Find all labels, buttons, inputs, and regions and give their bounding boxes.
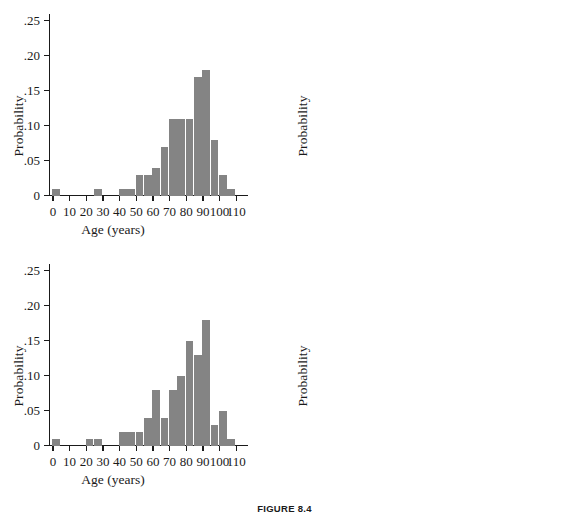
histogram-bar: [127, 189, 135, 196]
x-axis-tick: 110: [236, 446, 237, 451]
x-axis-tick: 10: [69, 446, 70, 451]
chart-panel-top-left: Probability 0.05.10.15.20.25010203040506…: [0, 0, 284, 252]
y-axis-tick: .05: [44, 160, 49, 161]
x-axis-tick-label: 10: [63, 205, 76, 218]
histogram-bar: [119, 189, 127, 196]
x-axis-tick-label: 40: [113, 205, 126, 218]
x-axis-tick-label: 0: [50, 205, 57, 218]
histogram-bar: [177, 376, 185, 446]
histogram-bar: [169, 390, 177, 446]
histogram-bar: [194, 77, 202, 196]
y-axis-tick: .10: [44, 375, 49, 376]
x-axis-tick: 100: [219, 446, 220, 451]
x-axis-tick-label: 30: [96, 455, 109, 468]
histogram-bar: [152, 168, 160, 196]
x-axis-tick-label: 90: [196, 455, 209, 468]
y-axis-tick-label: .05: [24, 154, 40, 167]
y-axis-tick-label: .20: [24, 49, 40, 62]
histogram-bar: [169, 119, 177, 196]
y-axis-tick-label: .15: [24, 334, 40, 347]
histogram-bar: [227, 189, 235, 196]
x-axis-tick: 110: [236, 196, 237, 201]
histogram-bar: [136, 432, 144, 446]
x-axis-tick-label: 40: [113, 455, 126, 468]
y-axis-tick-label: .25: [24, 264, 40, 277]
histogram-bar: [219, 175, 227, 196]
x-axis-tick-label: 20: [80, 455, 93, 468]
x-axis-tick-label: 50: [130, 455, 143, 468]
histogram-bar: [127, 432, 135, 446]
x-axis-tick-label: 0: [50, 455, 57, 468]
y-axis-label: Probability: [295, 66, 311, 186]
x-axis-tick-label: 20: [80, 205, 93, 218]
y-axis-tick: .15: [44, 340, 49, 341]
x-axis-tick: 40: [119, 446, 120, 451]
x-axis-label: Age (years): [18, 222, 208, 238]
chart-panel-top-right: Probability 0.05.10.15.20.25010203040506…: [284, 0, 569, 252]
histogram-bar: [136, 175, 144, 196]
x-axis-tick: 0: [52, 196, 53, 201]
y-axis-tick-label: 0: [34, 439, 41, 452]
y-axis-tick-label: .10: [24, 369, 40, 382]
x-axis-tick: 50: [136, 446, 137, 451]
x-axis-tick-label: 70: [163, 455, 176, 468]
figure-caption: FIGURE 8.4: [0, 503, 569, 517]
x-axis-tick-label: 10: [63, 455, 76, 468]
histogram-bar: [144, 418, 152, 446]
x-axis-tick: 60: [152, 446, 153, 451]
y-axis-tick: .05: [44, 410, 49, 411]
y-axis-tick: .25: [44, 20, 49, 21]
histogram-bar: [94, 189, 102, 196]
x-axis-tick: 10: [69, 196, 70, 201]
bars-top-left: [49, 14, 239, 196]
x-axis-tick: 90: [202, 446, 203, 451]
x-axis-tick: 30: [102, 196, 103, 201]
histogram-bar: [186, 119, 194, 196]
y-axis-label: Probability: [295, 316, 311, 436]
x-axis-tick-label: 80: [180, 205, 193, 218]
figure-panel-grid: Probability 0.05.10.15.20.25010203040506…: [0, 0, 569, 500]
x-axis-tick: 50: [136, 196, 137, 201]
x-axis-tick-label: 50: [130, 205, 143, 218]
x-axis-tick: 100: [219, 196, 220, 201]
y-axis-tick-label: .25: [24, 14, 40, 27]
x-axis-tick-label: 110: [227, 205, 246, 218]
bars-bottom-left: [49, 264, 239, 446]
x-axis-tick-label: 80: [180, 455, 193, 468]
histogram-bar: [52, 189, 60, 196]
x-axis-tick-label: 30: [96, 205, 109, 218]
histogram-bar: [186, 341, 194, 446]
y-axis-tick: .25: [44, 270, 49, 271]
x-axis-tick: 0: [52, 446, 53, 451]
x-axis-tick: 90: [202, 196, 203, 201]
histogram-bar: [94, 439, 102, 446]
y-axis-tick-label: .10: [24, 119, 40, 132]
y-axis-tick: .20: [44, 305, 49, 306]
x-axis-tick-label: 70: [163, 205, 176, 218]
histogram-bar: [161, 418, 169, 446]
x-axis-tick: 30: [102, 446, 103, 451]
chart-panel-bottom-right: Probability 0.05.10.15.20.25010203040506…: [284, 252, 569, 500]
plot-area-top-left: 0.05.10.15.20.25010203040506070809010011…: [49, 14, 239, 196]
histogram-bar: [52, 439, 60, 446]
histogram-bar: [144, 175, 152, 196]
x-axis-tick: 60: [152, 196, 153, 201]
histogram-bar: [202, 70, 210, 196]
chart-panel-bottom-left: Probability 0.05.10.15.20.25010203040506…: [0, 252, 284, 500]
y-axis-tick-label: .05: [24, 404, 40, 417]
x-axis-tick: 20: [86, 196, 87, 201]
histogram-bar: [219, 411, 227, 446]
x-axis-tick-label: 60: [146, 205, 159, 218]
histogram-bar: [227, 439, 235, 446]
x-axis-tick-label: 60: [146, 455, 159, 468]
y-axis-tick: .15: [44, 90, 49, 91]
y-axis-tick: .20: [44, 55, 49, 56]
x-axis-tick: 80: [186, 446, 187, 451]
y-axis-tick-label: .15: [24, 84, 40, 97]
x-axis-label: Age (years): [18, 472, 208, 488]
y-axis-tick: 0: [44, 445, 49, 446]
histogram-bar: [194, 355, 202, 446]
histogram-bar: [202, 320, 210, 446]
x-axis-tick: 80: [186, 196, 187, 201]
x-axis-tick: 20: [86, 446, 87, 451]
